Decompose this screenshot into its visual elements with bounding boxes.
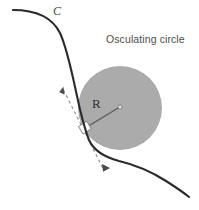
curve-label-c: C <box>53 5 61 17</box>
osculating-circle-title: Osculating circle <box>106 34 185 45</box>
tangent-arrowhead-top <box>59 86 67 94</box>
circle-center-dot <box>118 105 122 109</box>
tangent-arrowhead-bottom <box>99 164 110 174</box>
radius-label-r: R <box>92 97 101 110</box>
osculating-circle-figure: C Osculating circle R <box>0 0 199 210</box>
